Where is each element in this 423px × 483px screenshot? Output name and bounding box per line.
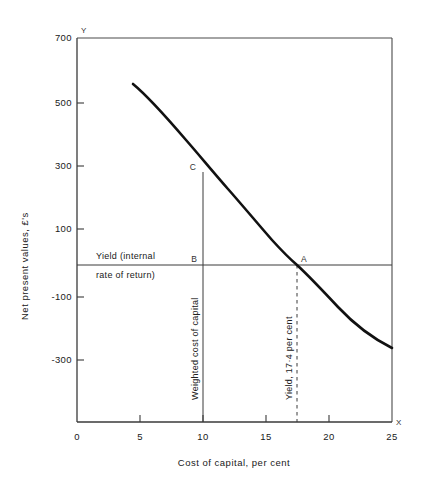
y-tick-label-700: 700 [55, 32, 72, 43]
y-axis-tick-labels: 700 500 300 100 -100 -300 [51, 32, 72, 365]
npv-profile-curve [133, 84, 392, 348]
x-tick-label-0: 0 [74, 431, 80, 442]
yield-annotation-line1: Yield (internal [96, 251, 155, 261]
point-label-a: A [301, 254, 307, 264]
npv-profile-chart: 700 500 300 100 -100 -300 0 5 10 15 20 2… [0, 0, 423, 483]
x-axis-title: Cost of capital, per cent [178, 457, 290, 468]
yield-annotation-line2: rate of return) [96, 270, 155, 280]
y-tick-label-300: 300 [55, 160, 72, 171]
weighted-cost-of-capital-annotation: Weighted cost of capital [190, 297, 200, 400]
yield-percent-annotation: Yield, 17·4 per cent [284, 316, 294, 400]
point-label-c: C [190, 162, 196, 172]
y-axis-title: Net present values, £'s [19, 212, 30, 320]
y-tick-label-neg300: -300 [51, 354, 72, 365]
x-tick-label-15: 15 [260, 431, 271, 442]
chart-frame [77, 38, 392, 422]
y-tick-label-100: 100 [55, 223, 72, 234]
point-label-b: B [191, 254, 197, 264]
x-axis-tick-labels: 0 5 10 15 20 25 [74, 431, 398, 442]
y-axis-end-marker: Y [81, 26, 87, 35]
x-axis-end-marker: X [396, 418, 402, 427]
x-tick-label-5: 5 [137, 431, 143, 442]
x-tick-label-20: 20 [323, 431, 334, 442]
y-axis-ticks [77, 103, 84, 360]
x-tick-label-25: 25 [386, 431, 397, 442]
y-tick-label-neg100: -100 [51, 291, 72, 302]
y-tick-label-500: 500 [55, 97, 72, 108]
x-tick-label-10: 10 [197, 431, 208, 442]
x-axis-ticks [140, 415, 329, 422]
